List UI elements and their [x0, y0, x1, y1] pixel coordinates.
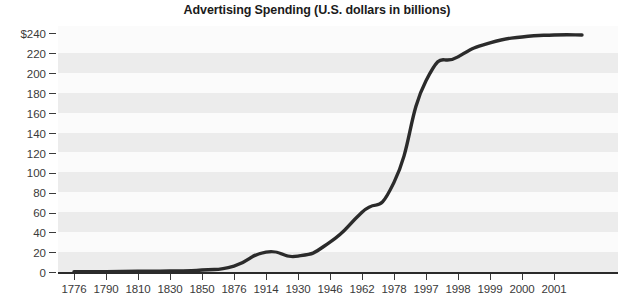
- x-axis-tick-mark: [458, 274, 459, 280]
- x-axis-tick-label: 2000: [510, 283, 535, 295]
- x-axis-tick-label: 1998: [446, 283, 471, 295]
- x-axis-tick-label: 1914: [254, 283, 279, 295]
- advertising-spending-chart: Advertising Spending (U.S. dollars in bi…: [0, 0, 634, 305]
- x-axis-tick-mark: [202, 274, 203, 280]
- x-axis-tick-label: 1978: [382, 283, 407, 295]
- x-axis-tick-label: 1790: [94, 283, 119, 295]
- x-axis-tick-mark: [138, 274, 139, 280]
- x-axis-tick-mark: [362, 274, 363, 280]
- x-axis-tick-mark: [394, 274, 395, 280]
- x-axis-tick-mark: [522, 274, 523, 280]
- x-axis-tick-label: 1776: [62, 283, 87, 295]
- x-axis-tick-label: 1930: [286, 283, 311, 295]
- x-axis-tick-label: 1830: [158, 283, 183, 295]
- x-axis-tick-mark: [554, 274, 555, 280]
- x-axis-tick-label: 1810: [126, 283, 151, 295]
- x-axis-tick-label: 1850: [190, 283, 215, 295]
- x-axis-tick-mark: [74, 274, 75, 280]
- x-axis-tick-mark: [234, 274, 235, 280]
- x-axis-tick-mark: [490, 274, 491, 280]
- x-axis: 1776179018101830185018761914193019461962…: [0, 0, 634, 305]
- x-axis-tick-mark: [330, 274, 331, 280]
- x-axis-tick-label: 1962: [350, 283, 375, 295]
- x-axis-tick-mark: [298, 274, 299, 280]
- x-axis-tick-mark: [266, 274, 267, 280]
- x-axis-tick-label: 1999: [478, 283, 503, 295]
- x-axis-tick-label: 1876: [222, 283, 247, 295]
- x-axis-tick-mark: [106, 274, 107, 280]
- x-axis-tick-label: 2001: [542, 283, 567, 295]
- x-axis-tick-mark: [426, 274, 427, 280]
- x-axis-tick-mark: [170, 274, 171, 280]
- x-axis-tick-label: 1997: [414, 283, 439, 295]
- x-axis-tick-label: 1946: [318, 283, 343, 295]
